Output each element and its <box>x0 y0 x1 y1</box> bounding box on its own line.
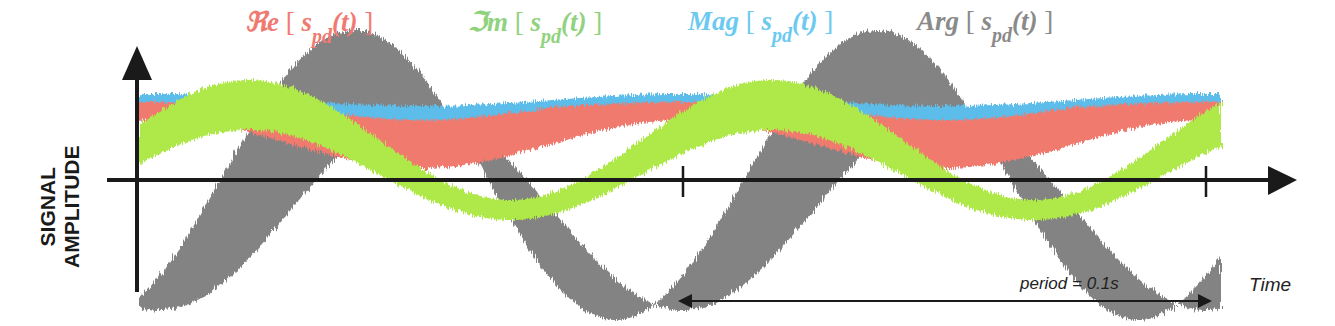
legend-mag: Mag [ spd(t) ] <box>688 6 833 47</box>
x-axis-label: Time <box>1249 274 1291 296</box>
legend-re: ℜe [ spd(t) ] <box>245 6 373 48</box>
legend-im: ℑm [ spd(t) ] <box>468 6 602 48</box>
y-axis-arrow-icon <box>122 46 152 80</box>
y-axis-label: SIGNAL AMPLITUDE <box>36 146 84 269</box>
signal-plot <box>0 0 1335 326</box>
x-axis-arrow-icon <box>1268 166 1297 195</box>
legend-arg: Arg [ spd(t) ] <box>917 6 1053 47</box>
period-label: period = 0.1s <box>1020 274 1119 294</box>
